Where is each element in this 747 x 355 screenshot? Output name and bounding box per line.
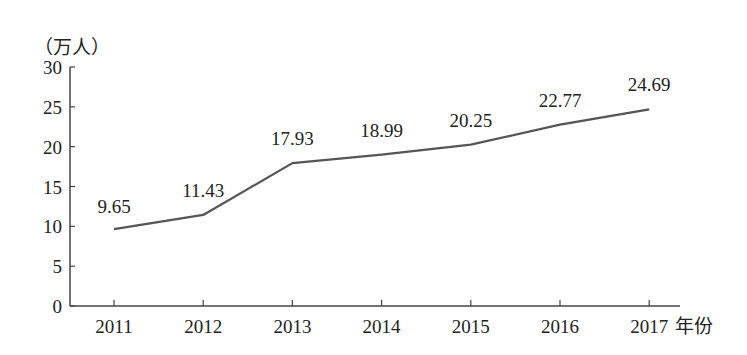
x-tick-label: 2012 [184, 316, 222, 337]
x-tick-label: 2015 [452, 316, 490, 337]
x-axis-label: 年份 [675, 316, 713, 337]
line-chart: 051015202530（万人）201120122013201420152016… [0, 0, 747, 355]
y-tick-label: 10 [43, 216, 62, 237]
data-label: 17.93 [271, 128, 314, 149]
x-tick-label: 2017 [630, 316, 668, 337]
data-label: 9.65 [97, 196, 130, 217]
data-label: 20.25 [449, 110, 492, 131]
y-tick-label: 20 [43, 137, 62, 158]
x-tick-label: 2011 [95, 316, 132, 337]
x-tick-label: 2013 [273, 316, 311, 337]
axes: 051015202530（万人）201120122013201420152016… [34, 37, 713, 337]
data-label: 22.77 [539, 90, 582, 111]
x-tick-label: 2014 [363, 316, 402, 337]
data-labels: 9.6511.4317.9318.9920.2522.7724.69 [97, 74, 670, 217]
data-label: 18.99 [360, 120, 403, 141]
data-label: 11.43 [182, 180, 224, 201]
y-tick-label: 5 [53, 256, 63, 277]
y-axis-label: （万人） [34, 37, 110, 58]
x-tick-label: 2016 [541, 316, 579, 337]
y-tick-label: 0 [53, 296, 63, 317]
y-tick-label: 15 [43, 177, 62, 198]
y-tick-label: 30 [43, 57, 62, 78]
data-label: 24.69 [628, 74, 671, 95]
y-tick-label: 25 [43, 97, 62, 118]
